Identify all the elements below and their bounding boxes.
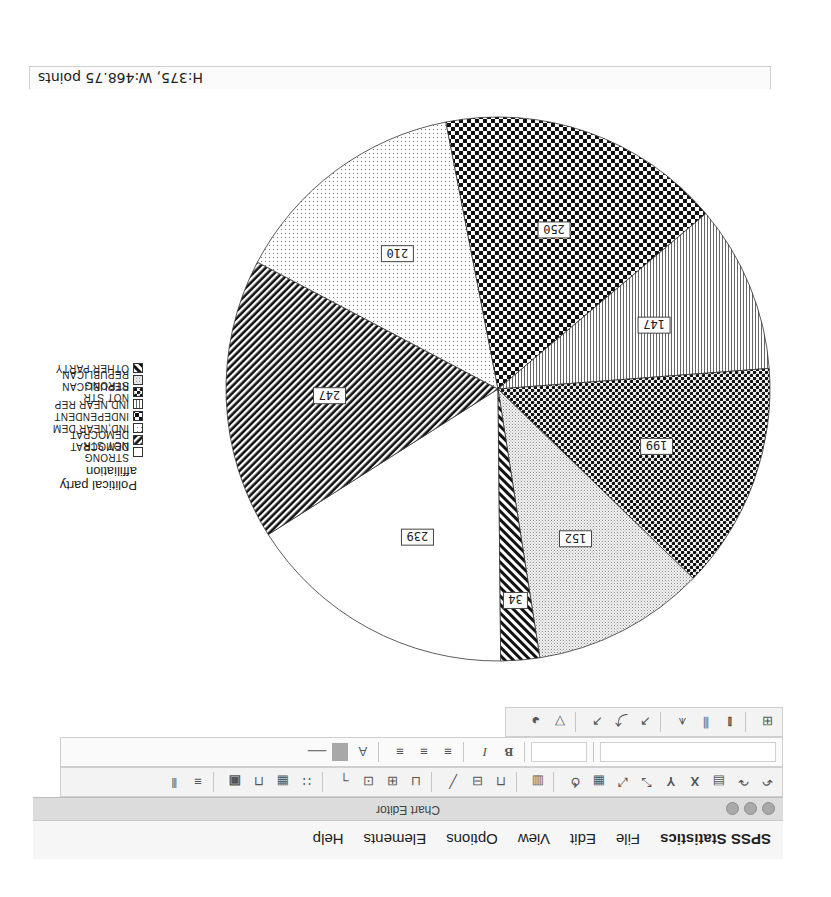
legend-swatch-icon	[133, 388, 143, 398]
lasso-icon[interactable]: ⥀	[566, 773, 584, 791]
table-icon[interactable]: ∷	[298, 773, 316, 791]
transpose-icon[interactable]: ⊓	[250, 773, 268, 791]
footnote-icon[interactable]: ⊟	[468, 773, 486, 791]
legend-swatch-icon	[133, 376, 143, 386]
menu-elements[interactable]: Elements	[364, 832, 427, 849]
legend-swatch-icon	[133, 436, 143, 446]
slice-data-label: 210	[387, 246, 409, 260]
menu-edit[interactable]: Edit	[570, 832, 596, 849]
legend-item[interactable]: INDEPENDENT	[33, 411, 143, 422]
fill-icon[interactable]: ▦	[590, 773, 608, 791]
x-axis-icon[interactable]: X	[686, 773, 704, 791]
undo-icon[interactable]: ↶	[758, 773, 776, 791]
slice-data-label: 147	[643, 317, 665, 331]
data-label-icon[interactable]: ▦	[274, 773, 292, 791]
annotation-icon[interactable]: ⊔	[407, 773, 425, 791]
legend-swatch-icon	[133, 448, 143, 458]
align-center-icon[interactable]: ≡	[415, 743, 433, 761]
pie-slices[interactable]	[226, 117, 770, 661]
main-toolbar: ↶ ↷ ▤ X Y ⤡ ⤢ ▦ ⥀ ▥ ⊓ ⊟ ╱ ⊔ ⊞ ⊡ ┐ ∷ ▦ ⊓ …	[60, 767, 783, 797]
bold-button[interactable]: B	[500, 743, 518, 761]
redo-icon[interactable]: ↷	[734, 773, 752, 791]
rescale-icon[interactable]: ⤡	[638, 773, 656, 791]
explode-icon[interactable]: ⫴	[165, 773, 183, 791]
fit-line-icon[interactable]: ↗	[588, 713, 606, 731]
scale-icon[interactable]: ⤢	[614, 773, 632, 791]
menu-options[interactable]: Options	[446, 832, 498, 849]
textbox-icon[interactable]: ╱	[444, 773, 462, 791]
line-style-icon[interactable]: ──	[308, 743, 326, 761]
menu-view[interactable]: View	[518, 832, 550, 849]
slice-data-label: 152	[565, 531, 587, 545]
menu-bar: SPSS Statistics File Edit View Options E…	[33, 820, 783, 859]
slice-data-label: 247	[319, 388, 341, 402]
font-family-field[interactable]	[600, 742, 776, 762]
pie-label-icon[interactable]: ≡	[189, 773, 207, 791]
properties-icon[interactable]: ▤	[710, 773, 728, 791]
gridlines-icon[interactable]: ┐	[335, 773, 353, 791]
slice-data-label: 34	[508, 592, 522, 606]
series-icon[interactable]: ⩚	[673, 713, 691, 731]
legend-title: Political party affiliation	[33, 464, 137, 492]
app-name: SPSS Statistics	[660, 832, 771, 849]
legend-label: IND,NEAR DEM	[53, 423, 129, 434]
slice-data-label: 239	[407, 529, 429, 543]
menu-help[interactable]: Help	[313, 832, 344, 849]
legend-swatch-icon	[133, 424, 143, 434]
markers-icon[interactable]: ⤴	[612, 713, 630, 731]
y-axis-icon[interactable]: Y	[662, 773, 680, 791]
bar-label-icon[interactable]: ⫾	[721, 713, 739, 731]
menu-file[interactable]: File	[616, 832, 640, 849]
slice-data-label: 199	[646, 438, 668, 452]
text-color-button[interactable]: A	[354, 743, 372, 761]
pie-chart[interactable]: 23924721025014719915234	[33, 67, 783, 707]
elements-toolbar: ⊞ ⫾ ⫼ ⩚ ↗ ⤴ ↗ ▽ ◕	[505, 707, 783, 737]
legend-swatch-icon	[133, 364, 143, 374]
legend-item[interactable]: STRONG REPUBLICAN	[33, 375, 143, 386]
chart-canvas[interactable]: 23924721025014719915234 Political party …	[33, 67, 783, 707]
title-icon[interactable]: ⊓	[492, 773, 510, 791]
legend-swatch-icon	[133, 412, 143, 422]
fill-color-swatch[interactable]	[332, 743, 348, 761]
format-toolbar: B I ≡ ≡ ≡ A ──	[60, 737, 783, 767]
chart-size-text: H:375, W:468.75 points	[38, 70, 203, 86]
filter-icon[interactable]: ▽	[551, 713, 569, 731]
align-right-icon[interactable]: ≡	[391, 743, 409, 761]
align-left-icon[interactable]: ≡	[439, 743, 457, 761]
grid-icon[interactable]: ⊞	[758, 713, 776, 731]
legend-swatch-icon	[133, 400, 143, 410]
chart-legend[interactable]: Political party affiliation STRONG DEMOC…	[33, 362, 143, 492]
reference-line-icon[interactable]: ⊡	[359, 773, 377, 791]
pie-explode-icon[interactable]: ◕	[527, 713, 545, 731]
font-size-field[interactable]	[531, 742, 587, 762]
chart-type-icon[interactable]: ▥	[529, 773, 547, 791]
slice-data-label: 250	[543, 222, 565, 236]
legend-icon[interactable]: ⊞	[383, 773, 401, 791]
bar-icon[interactable]: ⫼	[697, 713, 715, 731]
status-bar: H:375, W:468.75 points	[29, 66, 771, 89]
line-icon[interactable]: ↗	[636, 713, 654, 731]
screenshot-stage: SPSS Statistics File Edit View Options E…	[0, 0, 831, 897]
legend-item[interactable]: NOT STR DEMOCRAT	[33, 435, 143, 446]
window-title: Chart Editor	[33, 803, 783, 817]
legend-label: INDEPENDENT	[54, 411, 129, 422]
italic-button[interactable]: I	[476, 743, 494, 761]
window-titlebar: Chart Editor	[33, 797, 783, 820]
legend-label: OTHER PARTY	[56, 363, 130, 374]
options-icon[interactable]: ▣	[226, 773, 244, 791]
